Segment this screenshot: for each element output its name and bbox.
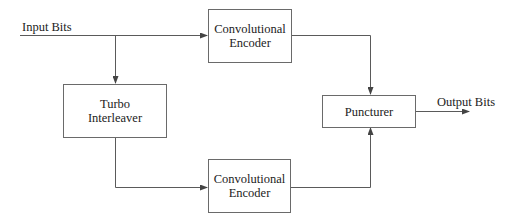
- output-bits-label: Output Bits: [437, 95, 495, 109]
- input-bits-label: Input Bits: [22, 20, 72, 34]
- convolutional-encoder-top: Convolutional Encoder: [208, 9, 292, 63]
- convolutional-encoder-bottom: Convolutional Encoder: [208, 159, 291, 213]
- wire-encoder-bottom-to-puncturer: [291, 128, 371, 188]
- encoder-top-line1: Convolutional: [214, 22, 286, 36]
- encoder-bottom-line1: Convolutional: [214, 172, 286, 186]
- wire-encoder-top-to-puncturer: [292, 36, 371, 95]
- wire-interleaver-to-encoder-bottom: [116, 138, 208, 188]
- puncturer: Puncturer: [322, 95, 416, 128]
- encoder-top-line2: Encoder: [229, 36, 271, 50]
- interleaver-line1: Turbo: [100, 97, 130, 111]
- interleaver-line2: Interleaver: [88, 111, 142, 125]
- puncturer-label: Puncturer: [345, 105, 394, 119]
- encoder-bottom-line2: Encoder: [229, 186, 271, 200]
- turbo-interleaver: Turbo Interleaver: [63, 84, 167, 138]
